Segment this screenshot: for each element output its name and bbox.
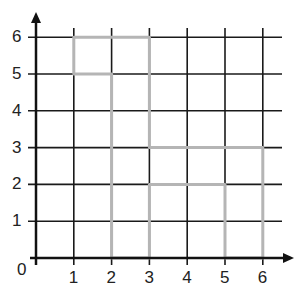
x-tick-label: 4 (182, 269, 191, 286)
y-axis-arrow-icon (31, 12, 41, 23)
y-tick-label: 4 (12, 102, 21, 119)
y-tick-label: 2 (12, 175, 21, 192)
x-tick-label: 2 (107, 269, 116, 286)
origin-label: 0 (17, 261, 26, 278)
x-axis-arrow-icon (283, 253, 294, 263)
y-tick-label: 1 (12, 212, 21, 229)
coordinate-grid (0, 0, 297, 296)
x-tick-label: 6 (258, 269, 267, 286)
x-tick-label: 5 (220, 269, 229, 286)
y-tick-label: 6 (12, 28, 21, 45)
x-tick-label: 3 (144, 269, 153, 286)
x-tick-label: 1 (69, 269, 78, 286)
y-tick-label: 5 (12, 65, 21, 82)
y-tick-label: 3 (12, 139, 21, 156)
